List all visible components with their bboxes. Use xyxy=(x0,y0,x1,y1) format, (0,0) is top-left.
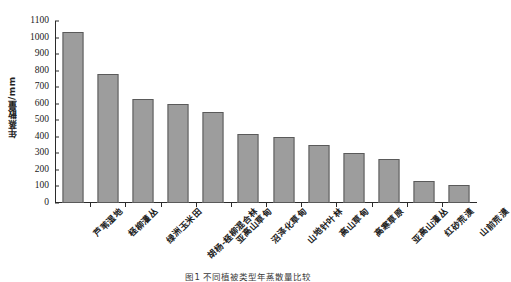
bar xyxy=(379,159,400,203)
y-tick-label: 100 xyxy=(35,182,49,192)
x-tick-mark xyxy=(442,203,443,207)
x-tick-mark xyxy=(196,203,197,207)
figure-caption: 图1 不同植被类型年蒸散量比较 xyxy=(0,272,496,282)
x-tick-mark xyxy=(125,203,126,207)
y-tick-label: 500 xyxy=(35,116,49,126)
x-tick-mark xyxy=(407,203,408,207)
y-tick-label: 700 xyxy=(35,82,49,92)
bar-slot xyxy=(442,21,477,203)
x-category-label: 山地针叶林 xyxy=(306,207,344,245)
x-category-label: 芦苇湿地 xyxy=(92,207,124,239)
bar xyxy=(168,104,189,203)
x-category-label: 亚高山灌丛 xyxy=(411,207,449,245)
x-category-label: 柽柳灌丛 xyxy=(127,207,159,239)
bar xyxy=(273,137,294,203)
y-tick-label: 0 xyxy=(44,198,49,208)
bar-slot xyxy=(55,21,90,203)
y-tick-label: 200 xyxy=(35,165,49,175)
bar xyxy=(449,185,470,203)
bar xyxy=(343,153,364,203)
bar-slot xyxy=(231,21,266,203)
bar-slot xyxy=(336,21,371,203)
bar xyxy=(203,112,224,203)
bar xyxy=(97,74,118,203)
bar-slot xyxy=(90,21,125,203)
bar-slot xyxy=(407,21,442,203)
y-tick-label: 400 xyxy=(35,132,49,142)
bar xyxy=(308,145,329,203)
bar-slot xyxy=(266,21,301,203)
bar-slot xyxy=(125,21,160,203)
x-tick-mark xyxy=(161,203,162,207)
bar xyxy=(238,134,259,203)
x-category-label: 高寒草原 xyxy=(373,207,405,239)
x-tick-mark xyxy=(90,203,91,207)
x-tick-mark xyxy=(372,203,373,207)
y-tick-label: 300 xyxy=(35,149,49,159)
bar xyxy=(132,99,153,203)
y-tick-label: 1100 xyxy=(30,16,49,26)
bar-slot xyxy=(196,21,231,203)
y-tick-label: 1000 xyxy=(30,33,49,43)
x-tick-mark xyxy=(336,203,337,207)
x-tick-mark xyxy=(266,203,267,207)
bar-series xyxy=(55,21,477,203)
y-axis-tick-labels: 010020030040050060070080090010001100 xyxy=(0,21,55,203)
x-category-label: 沼泽化草甸 xyxy=(271,207,309,245)
bar xyxy=(414,181,435,203)
x-tick-mark xyxy=(301,203,302,207)
bar-slot xyxy=(161,21,196,203)
x-category-label: 绿洲玉米田 xyxy=(165,207,203,245)
bar-slot xyxy=(372,21,407,203)
y-tick-label: 800 xyxy=(35,66,49,76)
y-tick-label: 900 xyxy=(35,49,49,59)
x-axis-category-labels: 芦苇湿地柽柳灌丛绿洲玉米田胡杨-柽柳混合林亚高山草甸沼泽化草甸山地针叶林高山草甸… xyxy=(55,207,477,267)
y-tick-label: 600 xyxy=(35,99,49,109)
x-tick-mark xyxy=(231,203,232,207)
x-category-label: 山前荒漠 xyxy=(479,207,511,239)
bar-slot xyxy=(301,21,336,203)
bar xyxy=(62,32,83,203)
